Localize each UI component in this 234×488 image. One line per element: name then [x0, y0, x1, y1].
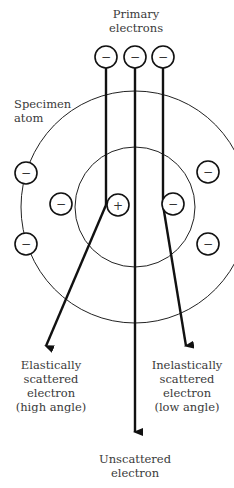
primary-electrons-label: Primary electrons [96, 7, 176, 35]
inelastic-scattered-path [163, 205, 186, 346]
elastic-scattered-label: Elastically scattered electron (high ang… [8, 358, 94, 414]
label-line: electron [92, 466, 178, 480]
label-line: (high angle) [8, 400, 94, 414]
nucleus: + [107, 194, 129, 216]
inner-shell-electron: − [50, 193, 72, 215]
label-line: electrons [96, 21, 176, 35]
primary-electron: − [152, 46, 174, 68]
label-line: electron [8, 386, 94, 400]
label-line: Elastically [8, 358, 94, 372]
electron-scattering-diagram: − − − − − − − − − + [0, 0, 234, 488]
label-line: scattered [8, 372, 94, 386]
primary-electron: − [95, 46, 117, 68]
specimen-atom-label: Specimen atom [14, 97, 71, 125]
svg-text:−: − [21, 237, 31, 251]
label-line: electron [144, 386, 230, 400]
outer-shell-electron: − [15, 233, 37, 255]
inner-shell-electron: − [162, 193, 184, 215]
svg-text:−: − [158, 50, 168, 64]
outer-shell-electron: − [197, 233, 219, 255]
svg-text:−: − [203, 165, 213, 179]
label-line: Unscattered [92, 452, 178, 466]
label-line: (low angle) [144, 400, 230, 414]
label-line: Specimen [14, 97, 71, 111]
label-line: scattered [144, 372, 230, 386]
primary-electron: − [124, 46, 146, 68]
svg-text:−: − [203, 237, 213, 251]
label-line: Primary [96, 7, 176, 21]
label-line: atom [14, 111, 71, 125]
svg-text:−: − [101, 50, 111, 64]
svg-text:−: − [56, 197, 66, 211]
svg-text:−: − [130, 50, 140, 64]
svg-text:−: − [168, 197, 178, 211]
elastic-scattered-path [46, 205, 106, 346]
svg-text:+: + [113, 199, 123, 213]
inelastic-scattered-label: Inelastically scattered electron (low an… [144, 358, 230, 414]
outer-shell-electron: − [15, 162, 37, 184]
label-line: Inelastically [144, 358, 230, 372]
outer-shell-electron: − [197, 161, 219, 183]
unscattered-electron-label: Unscattered electron [92, 452, 178, 480]
svg-text:−: − [21, 166, 31, 180]
